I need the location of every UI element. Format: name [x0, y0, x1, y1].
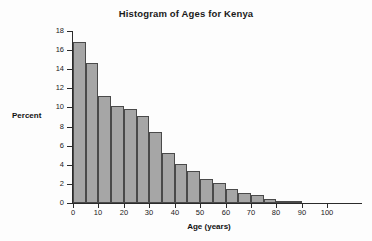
y-axis-tick-label: 14: [24, 65, 64, 73]
y-axis-tick: [67, 184, 72, 185]
histogram-chart: Histogram of Ages for Kenya Percent 0246…: [0, 0, 372, 241]
histogram-bar: [200, 179, 213, 203]
histogram-bar: [238, 193, 251, 204]
y-axis-tick-label: 18: [24, 27, 64, 35]
histogram-bar: [111, 106, 124, 203]
chart-title: Histogram of Ages for Kenya: [0, 8, 372, 19]
y-axis-tick-label: 0: [24, 199, 64, 207]
y-axis-tick: [67, 107, 72, 108]
y-axis-tick-label: 4: [24, 161, 64, 169]
bars-layer: [73, 31, 345, 203]
y-axis-tick-label: 6: [24, 142, 64, 150]
histogram-bar: [137, 116, 150, 203]
y-axis-tick: [67, 69, 72, 70]
histogram-bar: [264, 199, 277, 203]
histogram-bar: [187, 171, 200, 203]
x-axis-title: Age (years): [73, 222, 345, 231]
histogram-bar: [276, 201, 289, 203]
histogram-bar: [289, 201, 302, 203]
y-axis-tick-label: 8: [24, 123, 64, 131]
y-axis-tick: [67, 146, 72, 147]
histogram-bar: [162, 153, 175, 203]
y-axis-tick: [67, 88, 72, 89]
histogram-bar: [213, 183, 226, 203]
y-axis-tick-label: 16: [24, 46, 64, 54]
y-axis-tick: [67, 50, 72, 51]
y-axis-tick: [67, 165, 72, 166]
histogram-bar: [73, 42, 86, 203]
histogram-bar: [226, 189, 239, 203]
histogram-bar: [124, 109, 137, 203]
histogram-bar: [86, 63, 99, 203]
histogram-bar: [98, 96, 111, 203]
y-axis-tick: [67, 203, 72, 204]
x-axis-line: [72, 203, 362, 204]
y-axis-tick-label: 12: [24, 84, 64, 92]
y-axis-tick-label: 10: [24, 103, 64, 111]
histogram-bar: [251, 195, 264, 203]
x-axis-tick-label: 100: [312, 209, 342, 217]
histogram-bar: [149, 132, 162, 203]
y-axis-tick: [67, 127, 72, 128]
y-axis-tick-label: 2: [24, 180, 64, 188]
y-axis-title: Percent: [12, 111, 41, 120]
y-axis-tick: [67, 31, 72, 32]
plot-area: [73, 31, 345, 203]
histogram-bar: [175, 164, 188, 203]
